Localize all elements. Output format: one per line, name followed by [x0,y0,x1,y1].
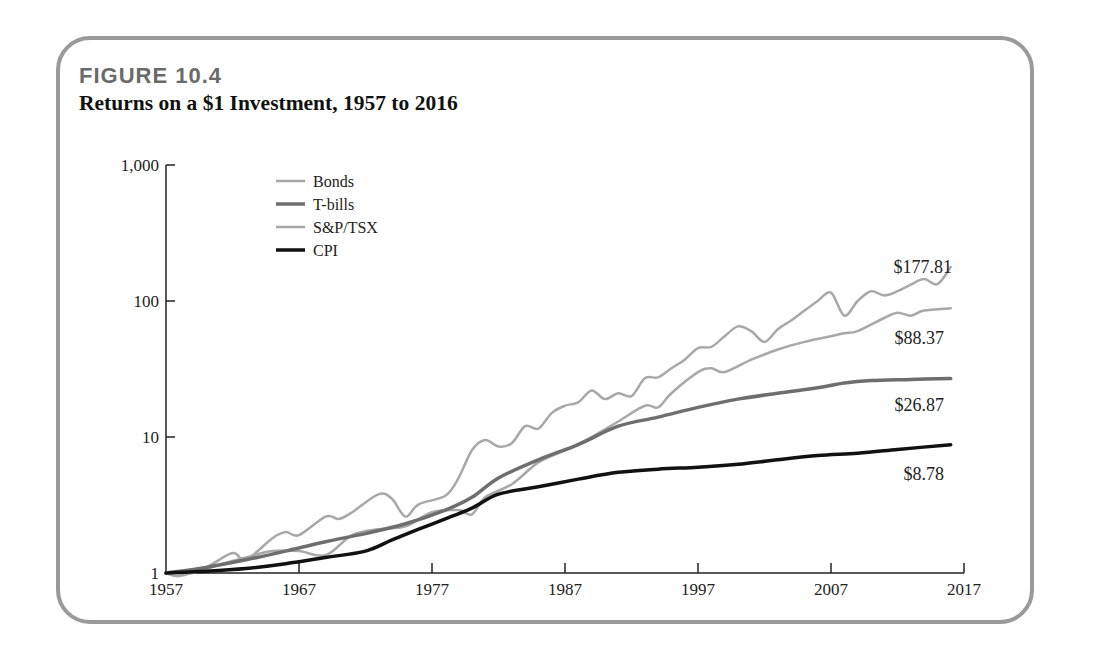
x-tick-label: 1967 [282,580,317,599]
end-value-label: $8.78 [904,464,945,484]
legend-label: S&P/TSX [313,219,378,236]
axes: 1101001,0001957196719771987199720072017 [121,156,982,599]
x-tick-label: 1997 [681,580,716,599]
x-tick-label: 1957 [149,580,184,599]
series-lines [166,267,951,576]
x-tick-label: 1977 [415,580,450,599]
x-tick-label: 1987 [548,580,583,599]
end-value-label: $88.37 [895,328,945,348]
end-value-label: $177.81 [894,257,953,277]
y-tick-label: 10 [142,428,159,447]
y-tick-label: 1,000 [121,156,159,175]
end-value-label: $26.87 [895,395,945,415]
line-chart: 1101001,0001957196719771987199720072017 … [0,0,1094,665]
x-tick-label: 2017 [947,580,982,599]
x-tick-label: 2007 [814,580,849,599]
series-line-bonds [166,308,951,573]
legend-label: T-bills [313,196,354,213]
series-line-s-p-tsx [166,267,951,576]
series-line-cpi [166,445,951,573]
legend-label: Bonds [313,173,354,190]
legend: BondsT-billsS&P/TSXCPI [276,173,378,259]
y-tick-label: 100 [134,292,160,311]
legend-label: CPI [313,242,338,259]
